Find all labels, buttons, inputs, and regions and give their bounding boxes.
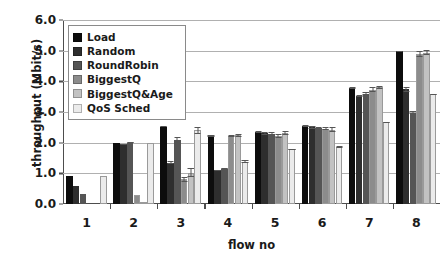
bar (349, 88, 355, 204)
x-group-separator (110, 204, 111, 209)
x-tick-label: 4 (224, 215, 233, 230)
bar (188, 173, 194, 204)
error-bar (285, 131, 286, 135)
bar (208, 136, 214, 204)
bar (214, 170, 220, 204)
legend-item-label: Load (87, 32, 116, 43)
bar (120, 144, 126, 204)
error-bar (244, 160, 245, 162)
bar (376, 87, 382, 204)
error-bar (339, 146, 340, 147)
legend-item-label: BiggestQ (87, 74, 141, 85)
error-bar (271, 132, 272, 137)
error-bar (406, 87, 407, 92)
error-bar (190, 168, 191, 177)
error-bar (197, 127, 198, 134)
legend-swatch-icon (73, 89, 82, 98)
bar-group (346, 20, 393, 204)
error-bar (278, 134, 279, 138)
legend: LoadRandomRoundRobinBiggestQBiggestQ&Age… (68, 25, 186, 120)
error-bar (177, 137, 178, 144)
error-bar (292, 149, 293, 150)
bar (268, 134, 274, 204)
error-bar (264, 132, 265, 136)
error-bar (325, 127, 326, 129)
error-bar (123, 144, 124, 145)
x-tick-label: 3 (176, 215, 185, 230)
error-bar (312, 126, 313, 128)
x-group-separator (252, 204, 253, 209)
bar (275, 136, 281, 204)
legend-item: Load (73, 30, 180, 44)
bar (194, 130, 200, 204)
x-tick-label: 1 (82, 215, 91, 230)
y-tick-label: 5.0 (35, 44, 56, 58)
y-tick-label: 1.0 (35, 166, 56, 180)
bar (235, 135, 241, 204)
error-bar (386, 122, 387, 123)
x-axis-title: flow no (63, 238, 440, 252)
bar (309, 127, 315, 204)
legend-item-label: Random (87, 46, 135, 57)
bar (160, 127, 166, 204)
bar (181, 179, 187, 204)
bar (134, 195, 140, 204)
x-tick-label: 6 (318, 215, 327, 230)
error-bar (359, 95, 360, 97)
error-bar (184, 177, 185, 182)
legend-item: BiggestQ&Age (73, 87, 180, 101)
bar (289, 149, 295, 204)
legend-swatch-icon (73, 75, 82, 84)
legend-swatch-icon (73, 47, 82, 56)
bar-group (204, 20, 251, 204)
x-tick-label: 8 (412, 215, 421, 230)
y-tick-label: 4.0 (35, 74, 56, 88)
x-group-separator (204, 204, 205, 209)
y-tick-label: 0.0 (35, 197, 56, 211)
bar (403, 89, 409, 204)
bar (416, 54, 422, 204)
bar (255, 132, 261, 204)
error-bar (130, 142, 131, 143)
bar (73, 186, 79, 204)
legend-item-label: QoS Sched (87, 103, 150, 114)
bar (242, 162, 248, 204)
x-tick-label: 2 (129, 215, 138, 230)
error-bar (352, 87, 353, 89)
x-group-separator (346, 204, 347, 209)
error-bar (305, 125, 306, 127)
bar (410, 113, 416, 204)
y-tick-label: 6.0 (35, 13, 56, 27)
legend-swatch-icon (73, 61, 82, 70)
error-bar (163, 126, 164, 127)
error-bar (210, 135, 211, 136)
x-tick-label: 7 (365, 215, 374, 230)
legend-item: QoS Sched (73, 101, 180, 115)
bar (147, 143, 153, 204)
bar (100, 176, 106, 204)
y-tick-label: 2.0 (35, 136, 56, 150)
error-bar (419, 51, 420, 57)
legend-item: RoundRobin (73, 58, 180, 72)
error-bar (258, 131, 259, 133)
bar (80, 194, 86, 204)
bar (423, 53, 429, 204)
bar (282, 133, 288, 204)
legend-swatch-icon (73, 33, 82, 42)
bar (302, 126, 308, 204)
error-bar (170, 161, 171, 163)
bar (363, 94, 369, 204)
bar (221, 169, 227, 204)
error-bar (224, 168, 225, 169)
error-bar (318, 127, 319, 129)
bar (140, 202, 146, 204)
x-group-separator (157, 204, 158, 209)
bar (174, 140, 180, 204)
legend-item-label: BiggestQ&Age (87, 89, 173, 100)
legend-item-label: RoundRobin (87, 60, 159, 71)
x-group-separator (299, 204, 300, 209)
error-bar (399, 51, 400, 52)
x-tick-label: 5 (271, 215, 280, 230)
bar (430, 94, 436, 204)
y-tick-label: 3.0 (35, 105, 56, 119)
